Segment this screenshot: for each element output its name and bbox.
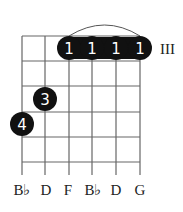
note-label: F (64, 182, 72, 198)
finger-number: 1 (87, 40, 97, 58)
string-note-labels: B♭ D F B♭ D G (13, 182, 145, 198)
note-label: D (111, 182, 122, 198)
note-label: G (135, 182, 146, 198)
barre-dots: 1 1 1 1 (57, 36, 152, 60)
finger-dot-3: 3 (33, 87, 57, 111)
barre-arc (69, 25, 140, 36)
finger-number: 4 (17, 116, 27, 134)
fret-position-label: III (160, 41, 175, 57)
finger-dot-4: 4 (10, 112, 34, 136)
note-label: D (41, 182, 52, 198)
note-label: B♭ (84, 182, 101, 198)
note-label: B♭ (13, 182, 30, 198)
chord-diagram: 1 1 1 1 3 4 III B♭ D F B♭ D G (0, 0, 183, 212)
finger-number: 3 (40, 91, 50, 109)
finger-number: 1 (111, 40, 121, 58)
finger-number: 1 (64, 40, 74, 58)
finger-number: 1 (135, 40, 145, 58)
